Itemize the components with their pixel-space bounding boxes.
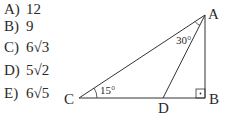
- angle-arc-c: [94, 88, 97, 98]
- vertex-label-b: B: [209, 91, 219, 107]
- vertex-label-a: A: [208, 6, 219, 22]
- angle-arc-a: [195, 22, 200, 26]
- angle-label-c: 15°: [100, 84, 115, 96]
- vertex-label-d: D: [158, 100, 169, 114]
- right-angle-dot: [200, 93, 202, 95]
- vertex-label-c: C: [64, 91, 74, 107]
- segment-ca: [79, 15, 205, 98]
- triangle-figure: A B C D 15° 30°: [0, 0, 232, 114]
- segment-ad: [163, 15, 205, 98]
- angle-label-a: 30°: [176, 34, 191, 46]
